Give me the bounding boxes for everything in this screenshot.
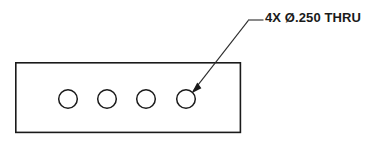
engineering-drawing-canvas: 4X Ø.250 THRU: [0, 0, 377, 145]
hole-callout-note: 4X Ø.250 THRU: [265, 10, 361, 25]
hole-3-circle: [137, 90, 156, 109]
hole-1-circle: [59, 90, 78, 109]
hole-2-circle: [98, 90, 117, 109]
